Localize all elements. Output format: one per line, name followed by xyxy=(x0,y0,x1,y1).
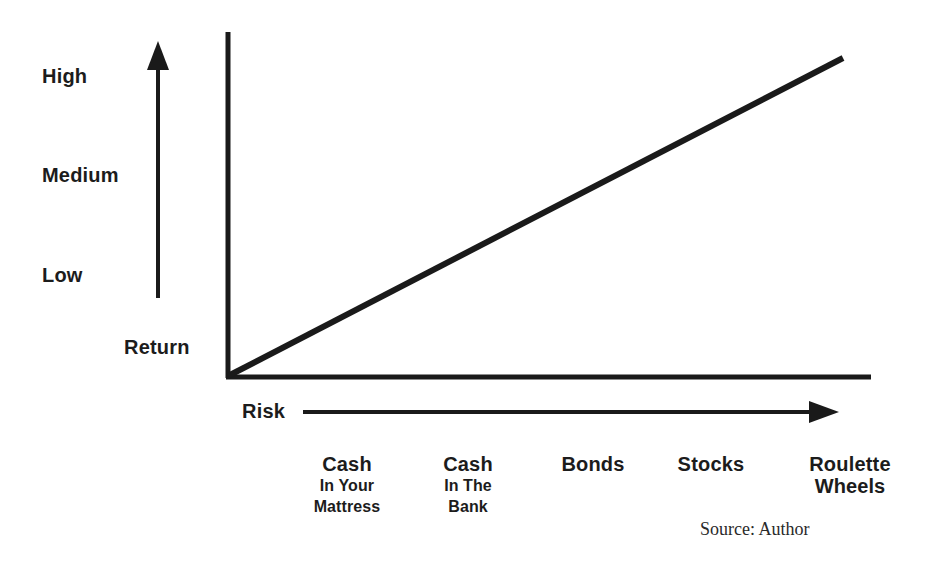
x-axis-title-risk: Risk xyxy=(242,401,285,421)
category-main-label: Stocks xyxy=(641,453,781,475)
y-axis-label-low: Low xyxy=(42,265,83,285)
y-axis-label-high: High xyxy=(42,66,87,86)
category-main-label: Cash xyxy=(398,453,538,475)
category-sub-label-1: Wheels xyxy=(780,475,920,498)
category-stocks: Stocks xyxy=(641,453,781,475)
category-sub-label-2: Bank xyxy=(398,496,538,517)
category-sub-label-2: Mattress xyxy=(277,496,417,517)
category-main-label: Cash xyxy=(277,453,417,475)
y-axis-label-medium: Medium xyxy=(42,165,119,185)
source-credit: Source: Author xyxy=(700,519,810,540)
risk-return-chart: High Medium Low Return Risk Cash In Your… xyxy=(0,0,930,564)
category-cash-in-the-bank: Cash In The Bank xyxy=(398,453,538,517)
risk-arrow-head-icon xyxy=(809,401,839,423)
category-cash-in-your-mattress: Cash In Your Mattress xyxy=(277,453,417,517)
category-roulette-wheels: Roulette Wheels xyxy=(780,453,920,498)
risk-return-trendline xyxy=(228,58,843,376)
category-sub-label-1: In The xyxy=(398,475,538,496)
category-sub-label-1: In Your xyxy=(277,475,417,496)
category-main-label: Roulette xyxy=(780,453,920,475)
return-arrow-head-icon xyxy=(147,41,169,70)
y-axis-title-return: Return xyxy=(124,337,190,357)
